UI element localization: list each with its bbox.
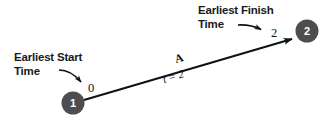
earliest-start-time-line1: Earliest Start <box>14 51 83 63</box>
earliest-finish-pointer-arrow <box>238 25 261 30</box>
earliest-start-time-line2: Time <box>14 65 40 77</box>
diagram-canvas: 1 0 2 2 A t = 2 Earliest Start Time Earl… <box>0 0 333 128</box>
earliest-finish-time-line1: Earliest Finish <box>198 4 274 16</box>
node-2-earliest-finish-value: 2 <box>271 26 277 40</box>
node-1-label: 1 <box>70 97 76 109</box>
network-diagram: 1 0 2 2 A t = 2 Earliest Start Time Earl… <box>0 0 333 128</box>
activity-duration-label: t = 2 <box>161 67 185 85</box>
activity-arrow-line <box>84 39 292 100</box>
earliest-finish-time-line2: Time <box>198 18 224 30</box>
node-1-earliest-start-value: 0 <box>88 81 94 95</box>
node-2-label: 2 <box>304 25 310 37</box>
activity-name-label: A <box>173 51 185 65</box>
earliest-start-pointer-arrow <box>59 70 81 82</box>
